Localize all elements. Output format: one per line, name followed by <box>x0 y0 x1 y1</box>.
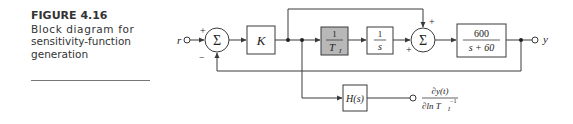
integrator-numerator: 1 <box>378 29 383 39</box>
sum2-left-plus-sign: + <box>406 44 412 55</box>
sensitivity-denominator: ∂ln T <box>422 101 442 111</box>
output-label: y <box>542 33 548 45</box>
inv-ti-numerator: 1 <box>332 29 337 39</box>
sensitivity-output-terminal <box>410 95 416 101</box>
sum2-top-plus-sign: + <box>429 16 435 27</box>
sensitivity-den-subscript: I <box>447 106 451 112</box>
output-terminal <box>532 37 538 43</box>
integrator-denominator: s <box>378 41 382 52</box>
block-diagram: r + − Σ K 1 T I 1 s + + Σ 600 s + 60 y H… <box>0 0 573 124</box>
input-terminal <box>184 37 190 43</box>
sum2-symbol: Σ <box>419 33 427 48</box>
gain-label: K <box>256 33 267 48</box>
sum1-minus-sign: − <box>199 52 205 63</box>
junction-dot-1 <box>286 38 290 42</box>
junction-dot-output <box>519 38 523 42</box>
junction-dot-2 <box>300 38 304 42</box>
sensitivity-den-superscript: −1 <box>450 98 456 104</box>
h-label: H(s) <box>345 93 364 105</box>
plant-denominator: s + 60 <box>469 42 495 53</box>
plant-numerator: 600 <box>474 28 489 39</box>
sum1-plus-sign: + <box>200 25 206 36</box>
wire-feedforward <box>288 9 423 40</box>
inv-ti-denominator: T <box>329 41 336 53</box>
sum1-symbol: Σ <box>213 33 221 48</box>
input-label: r <box>177 34 182 46</box>
sensitivity-numerator: ∂y(t) <box>432 86 449 96</box>
